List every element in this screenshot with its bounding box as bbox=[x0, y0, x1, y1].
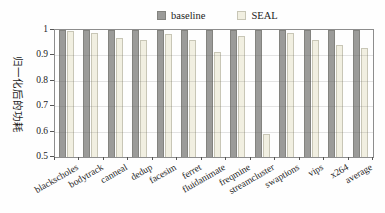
x-tick-mark bbox=[201, 157, 202, 160]
y-tick-label-0.5: 0.5 bbox=[22, 152, 48, 161]
x-tick-mark bbox=[225, 157, 226, 160]
y-tick-mark bbox=[50, 105, 54, 106]
legend-label-seal: SEAL bbox=[251, 10, 277, 21]
bar-baseline-streamcluster bbox=[255, 30, 262, 157]
y-tick-mark bbox=[50, 80, 54, 81]
bar-baseline-fluidanimate bbox=[206, 30, 213, 157]
x-tick-mark bbox=[348, 157, 349, 160]
y-tick-label-0.9: 0.9 bbox=[22, 50, 48, 59]
bar-baseline-bodytrack bbox=[83, 30, 90, 157]
x-tick-mark bbox=[78, 157, 79, 160]
bar-baseline-average bbox=[353, 30, 360, 157]
legend-item-seal: SEAL bbox=[237, 10, 277, 21]
bar-SEAL-bodytrack bbox=[91, 33, 98, 157]
bar-SEAL-swaptions bbox=[287, 33, 294, 157]
x-tick-mark bbox=[299, 157, 300, 160]
x-tick-mark bbox=[103, 157, 104, 160]
bar-baseline-dedup bbox=[132, 30, 139, 157]
y-tick-label-0.8: 0.8 bbox=[22, 76, 48, 85]
bar-SEAL-vips bbox=[312, 40, 319, 157]
bar-baseline-blackscholes bbox=[59, 30, 66, 157]
x-tick-mark bbox=[127, 157, 128, 160]
bar-baseline-swaptions bbox=[279, 30, 286, 157]
power-bar-chart: baseline SEAL 归一化后的功耗 10.90.80.70.60.5bl… bbox=[0, 0, 385, 213]
y-tick-label-1: 1 bbox=[22, 25, 48, 34]
legend-item-baseline: baseline bbox=[157, 10, 205, 21]
legend-label-baseline: baseline bbox=[171, 10, 205, 21]
gridline-0.9 bbox=[55, 55, 373, 56]
bar-baseline-x264 bbox=[328, 30, 335, 157]
bar-SEAL-x264 bbox=[336, 45, 343, 157]
bar-baseline-facesim bbox=[157, 30, 164, 157]
legend: baseline SEAL bbox=[157, 10, 278, 21]
x-tick-mark bbox=[152, 157, 153, 160]
x-tick-mark bbox=[323, 157, 324, 160]
bar-SEAL-blackscholes bbox=[67, 31, 74, 157]
seal-swatch-icon bbox=[237, 11, 246, 20]
bar-SEAL-dedup bbox=[140, 40, 147, 157]
bar-SEAL-streamcluster bbox=[263, 134, 270, 157]
y-tick-label-0.7: 0.7 bbox=[22, 101, 48, 110]
x-tick-mark bbox=[372, 157, 373, 160]
baseline-swatch-icon bbox=[157, 11, 166, 20]
x-tick-mark bbox=[176, 157, 177, 160]
plot-area bbox=[54, 29, 374, 158]
y-tick-mark bbox=[50, 29, 54, 30]
bar-baseline-canneal bbox=[108, 30, 115, 157]
bar-SEAL-ferret bbox=[189, 40, 196, 157]
bar-baseline-vips bbox=[304, 30, 311, 157]
x-tick-mark bbox=[274, 157, 275, 160]
bar-SEAL-facesim bbox=[165, 34, 172, 157]
y-tick-mark bbox=[50, 54, 54, 55]
bar-SEAL-fluidanimate bbox=[214, 52, 221, 157]
bar-SEAL-average bbox=[361, 48, 368, 157]
bar-baseline-freqmine bbox=[230, 30, 237, 157]
x-tick-mark bbox=[250, 157, 251, 160]
bar-baseline-ferret bbox=[181, 30, 188, 157]
gridline-0.6 bbox=[55, 132, 373, 133]
gridline-0.7 bbox=[55, 106, 373, 107]
y-tick-label-0.6: 0.6 bbox=[22, 127, 48, 136]
gridline-0.8 bbox=[55, 81, 373, 82]
y-tick-mark bbox=[50, 131, 54, 132]
x-tick-mark bbox=[54, 157, 55, 160]
